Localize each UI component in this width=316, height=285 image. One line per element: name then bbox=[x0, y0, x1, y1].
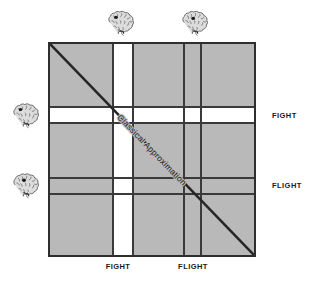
brain-icon bbox=[105, 9, 139, 36]
brain-icon bbox=[10, 102, 44, 129]
grid-rule-vertical bbox=[112, 44, 114, 255]
grid-rule-horizontal bbox=[50, 193, 254, 195]
grid-rule-horizontal bbox=[50, 177, 254, 179]
corridor-band-fight-column bbox=[114, 44, 132, 255]
grid-rule-vertical bbox=[200, 44, 202, 255]
brain-icon bbox=[179, 9, 213, 36]
axis-label-right-flight: FLIGHT bbox=[272, 181, 302, 190]
brain-icon bbox=[10, 172, 44, 199]
grid-rule-vertical bbox=[183, 44, 185, 255]
axis-label-bottom-fight: FIGHT bbox=[106, 262, 131, 271]
matrix-grid: Classical Approximation bbox=[48, 42, 256, 257]
grid-rule-vertical bbox=[132, 44, 134, 255]
grid-rule-horizontal bbox=[50, 122, 254, 124]
axis-label-bottom-flight: FLIGHT bbox=[178, 262, 208, 271]
grid-rule-horizontal bbox=[50, 106, 254, 108]
figure-canvas: Classical Approximation FIGHT FLIGHT FIG… bbox=[0, 0, 316, 285]
corridor-band-fight-row bbox=[50, 108, 254, 122]
axis-label-right-fight: FIGHT bbox=[272, 111, 297, 120]
